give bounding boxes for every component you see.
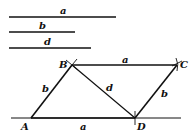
point-A-label: A xyxy=(20,121,29,132)
edge-BC-label: a xyxy=(122,54,128,65)
point-B-label: B xyxy=(58,59,67,70)
point-D-label: D xyxy=(136,121,146,132)
segment-a-label: a xyxy=(60,5,66,16)
segment-b-label: b xyxy=(39,20,46,31)
edge-AB-label: b xyxy=(42,83,49,94)
segment-d-label: d xyxy=(44,36,51,47)
point-C-label: C xyxy=(180,59,188,70)
edge-DC xyxy=(135,65,177,118)
parallelogram-construction-diagram: a b d A B C D a a b b d xyxy=(0,0,196,139)
edge-DC-label: b xyxy=(161,88,168,99)
edge-AB xyxy=(31,65,72,118)
diagonal-BD-label: d xyxy=(106,82,113,93)
edge-AD-label: a xyxy=(80,121,86,132)
diagonal-BD xyxy=(72,65,135,118)
given-segments xyxy=(9,17,116,48)
parallelogram xyxy=(31,65,177,118)
